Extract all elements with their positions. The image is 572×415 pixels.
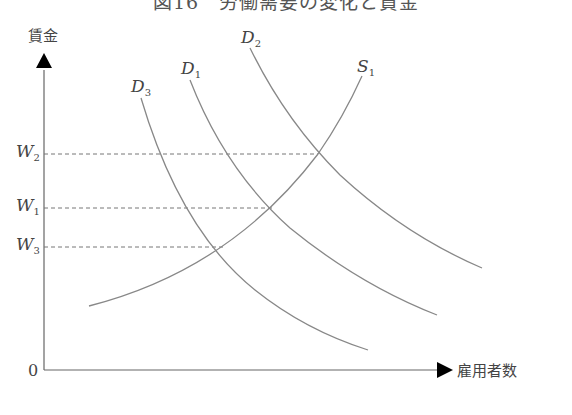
x-axis-label: 雇用者数 (457, 359, 517, 380)
wage-label-w2: W2 (16, 141, 40, 163)
demand-curve-d2 (250, 48, 482, 268)
demand-curve-d1 (190, 80, 437, 315)
curve-label-d2: D2 (241, 27, 261, 49)
wage-label-w3: W3 (16, 234, 40, 256)
y-axis-label: 賃金 (28, 24, 58, 45)
origin-label: 0 (28, 361, 38, 380)
x-axis-arrow-icon (437, 362, 453, 378)
curve-label-d1: D1 (181, 58, 201, 80)
supply-curve-s1 (89, 76, 362, 306)
curve-label-s1: S1 (357, 56, 375, 78)
chart-canvas (0, 0, 572, 415)
y-axis-arrow-icon (36, 53, 52, 68)
curve-label-d3: D3 (131, 76, 151, 98)
demand-curve-d3 (141, 98, 368, 350)
wage-label-w1: W1 (16, 195, 40, 217)
